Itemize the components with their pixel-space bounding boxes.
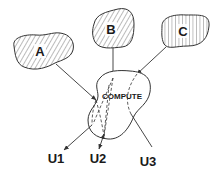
- label-u2: U2: [90, 151, 107, 166]
- edge-c-compute: [137, 47, 166, 74]
- edge-a-compute: [56, 64, 96, 100]
- source-b: B: [93, 9, 134, 48]
- label-b: B: [106, 22, 115, 37]
- source-c: C: [162, 15, 209, 47]
- label-u1: U1: [48, 151, 65, 166]
- edge-compute-u3: [131, 114, 152, 147]
- label-c: C: [178, 24, 188, 39]
- compute-diagram: A B C COMPUTE U1 U2 U3: [0, 0, 221, 182]
- edge-compute-u1: [64, 125, 92, 150]
- source-a: A: [14, 33, 74, 69]
- label-a: A: [35, 44, 45, 59]
- compute-node: COMPUTE: [88, 71, 150, 140]
- label-u3: U3: [140, 154, 157, 169]
- compute-blob-shape: [88, 71, 150, 140]
